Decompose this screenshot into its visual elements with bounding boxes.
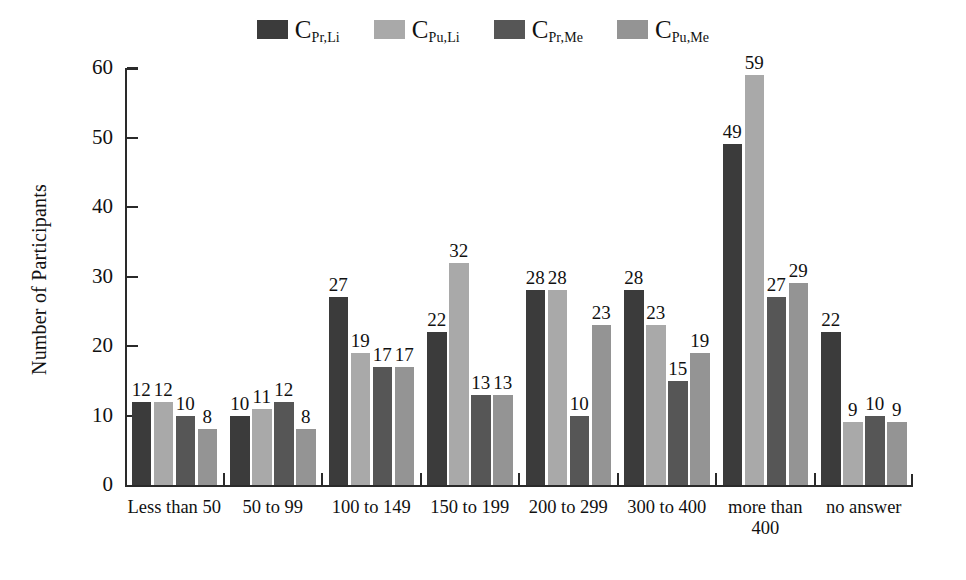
bar-value-label: 32 [442,241,476,260]
y-axis-tick-label: 30 [69,264,113,289]
bar[interactable] [395,367,415,485]
x-axis-line [125,485,913,487]
bar-value-label: 10 [563,394,597,413]
bar[interactable] [252,409,272,485]
plot-area: 1212108101112827191717223213132828102328… [125,68,913,487]
bar-value-label: 22 [814,310,848,329]
bar-chart: CPr,LiCPu,LiCPr,MeCPu,Me Number of Parti… [0,0,966,580]
bar[interactable] [570,416,590,486]
bar-value-label: 9 [880,400,914,419]
x-axis-category-line: no answer [804,497,925,518]
x-axis-right-cap [911,474,913,487]
y-axis-tick-label: 50 [69,125,113,150]
legend-item[interactable]: CPu,Li [374,17,460,42]
y-axis-tick [127,345,138,347]
y-axis-tick [127,67,138,69]
y-axis-tick [127,137,138,139]
bar-value-label: 19 [683,331,717,350]
legend-swatch [494,20,525,39]
y-axis-tick-label: 0 [69,472,113,497]
legend-item[interactable]: CPr,Li [257,17,340,42]
bar[interactable] [843,422,863,485]
bar[interactable] [493,395,513,485]
legend-swatch [374,20,405,39]
y-axis-line [125,68,127,487]
bar[interactable] [767,297,787,485]
bar-value-label: 23 [585,303,619,322]
bar[interactable] [526,290,546,485]
group-separator-tick [420,473,422,485]
legend-item[interactable]: CPr,Me [494,17,583,42]
bar[interactable] [646,325,666,485]
x-axis-category-line: 400 [705,518,826,539]
y-axis-tick-label: 60 [69,55,113,80]
bar[interactable] [198,429,218,485]
bar[interactable] [427,332,447,485]
bar-value-label: 8 [289,407,323,426]
bar-value-label: 12 [267,380,301,399]
group-separator-tick [617,473,619,485]
bar-value-label: 28 [617,268,651,287]
bar[interactable] [865,416,885,486]
group-separator-tick [223,473,225,485]
bar-value-label: 27 [322,275,356,294]
y-axis-tick-label: 10 [69,403,113,428]
bar-value-label: 17 [388,345,422,364]
bar[interactable] [230,416,250,486]
bar-value-label: 49 [716,122,750,141]
bar-value-label: 59 [738,53,772,72]
legend-label: CPr,Me [532,17,583,42]
bar-value-label: 23 [639,303,673,322]
chart-legend: CPr,LiCPu,LiCPr,MeCPu,Me [0,12,966,46]
bar[interactable] [723,144,743,485]
legend-label: CPu,Li [412,17,460,42]
legend-label: CPr,Li [295,17,340,42]
legend-label: CPu,Me [655,17,709,42]
bar[interactable] [154,402,174,485]
y-axis-tick [127,206,138,208]
bar-value-label: 13 [486,373,520,392]
legend-item[interactable]: CPu,Me [617,17,709,42]
x-axis-category-label: no answer [804,497,925,518]
bar-value-label: 28 [541,268,575,287]
bar-value-label: 22 [420,310,454,329]
group-separator-tick [321,473,323,485]
y-axis-tick-label: 40 [69,194,113,219]
bar[interactable] [548,290,568,485]
bar[interactable] [789,283,809,485]
bar[interactable] [887,422,907,485]
group-separator-tick [715,473,717,485]
bar[interactable] [373,367,393,485]
bar[interactable] [668,381,688,485]
bar[interactable] [132,402,152,485]
y-axis-tick [127,276,138,278]
bar-value-label: 15 [661,359,695,378]
bar[interactable] [296,429,316,485]
y-axis-tick-label: 20 [69,333,113,358]
bar[interactable] [329,297,349,485]
bar-value-label: 8 [191,407,225,426]
y-axis-title: Number of Participants [28,155,51,405]
bar[interactable] [351,353,371,485]
bar[interactable] [471,395,491,485]
legend-swatch [617,20,648,39]
legend-swatch [257,20,288,39]
group-separator-tick [814,473,816,485]
group-separator-tick [518,473,520,485]
bar-value-label: 29 [782,261,816,280]
